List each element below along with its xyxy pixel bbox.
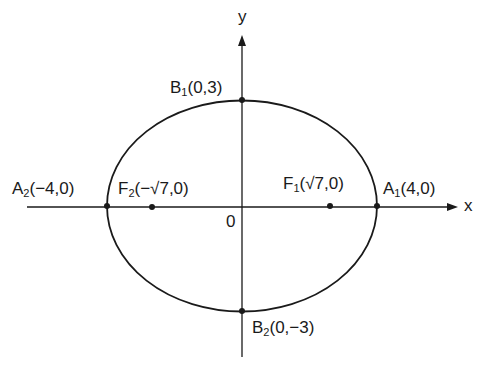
label-f1: F1(√7,0) <box>283 174 344 194</box>
point-b2 <box>239 308 245 314</box>
point-a2 <box>104 203 110 209</box>
point-b1 <box>239 97 245 103</box>
x-axis-arrow-icon <box>447 203 458 211</box>
x-axis-label: x <box>464 196 473 215</box>
label-a1: A1(4,0) <box>383 179 435 199</box>
label-a2: A2(−4,0) <box>12 179 74 199</box>
y-axis-arrow-icon <box>238 35 246 46</box>
origin-label: 0 <box>226 212 235 231</box>
label-f2: F2(−√7,0) <box>118 179 189 199</box>
y-axis-label: y <box>238 7 247 26</box>
label-b1: B1(0,3) <box>170 78 222 98</box>
point-a1 <box>374 203 380 209</box>
point-f2 <box>149 204 155 210</box>
ellipse-diagram: y x 0 B1(0,3) B2(0,−3) A2(−4,0) F2(−√7,0… <box>0 0 483 366</box>
point-f1 <box>327 203 333 209</box>
label-b2: B2(0,−3) <box>252 318 314 338</box>
